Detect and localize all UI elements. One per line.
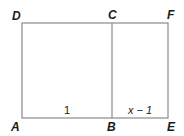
segment-label-BE: x − 1 [128,105,152,116]
point-label-D: D [12,10,21,22]
point-label-F: F [167,9,174,21]
point-label-A: A [11,121,20,133]
point-label-B: B [107,121,116,133]
point-label-C: C [108,9,117,21]
figure-canvas [0,0,184,136]
segment-label-AB: 1 [64,105,70,116]
point-label-E: E [167,121,175,133]
